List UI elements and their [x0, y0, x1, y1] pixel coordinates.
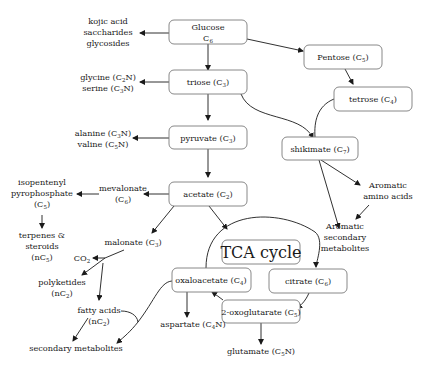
arrow-malonate-branch	[105, 250, 124, 258]
label-aromatic-amino-acids: Aromatic amino acids	[363, 180, 413, 201]
glucose-label: Glucose	[192, 22, 225, 32]
svg-text:(nC5): (nC5)	[31, 252, 52, 263]
svg-text:alanine (C3N): alanine (C3N)	[75, 128, 131, 139]
label-glucose-products: kojic acid saccharides glycosides	[83, 16, 132, 48]
node-pyruvate: pyruvate (C3)	[169, 126, 247, 149]
node-glucose: Glucose C6	[169, 20, 247, 44]
arrow-fatty-secondary	[73, 318, 88, 341]
svg-text:tetrose (C4): tetrose (C4)	[349, 94, 397, 105]
svg-text:CO2: CO2	[74, 253, 90, 264]
svg-text:secondary: secondary	[324, 232, 367, 242]
arrow-shikimate-aromatic-secondary	[319, 160, 339, 228]
svg-text:serine (C3N): serine (C3N)	[82, 83, 134, 94]
svg-text:kojic acid: kojic acid	[88, 16, 128, 26]
node-oxaloacetate: oxaloacetate (C4)	[172, 268, 251, 292]
arrow-oxaloacetate-secondary	[117, 281, 172, 343]
svg-text:(C5): (C5)	[34, 199, 50, 210]
svg-text:glutamate (C5N): glutamate (C5N)	[227, 346, 295, 357]
label-glutamate: glutamate (C5N)	[227, 346, 295, 357]
node-triose: triose (C3)	[169, 70, 247, 94]
svg-text:secondary metabolites: secondary metabolites	[29, 343, 123, 353]
svg-text:2-oxoglutarate (C5): 2-oxoglutarate (C5)	[221, 307, 300, 318]
brace-fatty-acids	[121, 311, 138, 322]
label-aromatic-secondary-metabolites: Aromatic secondary metabolites	[321, 221, 370, 253]
node-2-oxoglutarate: 2-oxoglutarate (C5)	[221, 300, 300, 323]
svg-text:(nC2): (nC2)	[88, 316, 109, 327]
arrow-shikimate-aromatic-amino	[321, 160, 360, 185]
svg-text:mevalonate: mevalonate	[99, 183, 147, 193]
arrow-acetate-malonate	[152, 206, 174, 233]
tca-cycle-label: TCA cycle	[220, 243, 301, 262]
label-malonate: malonate (C3)	[104, 237, 161, 248]
arrow-branch-fatty-acids	[99, 263, 103, 300]
label-polyketides: polyketides (nC2)	[38, 277, 85, 299]
svg-text:shikimate (C7): shikimate (C7)	[290, 144, 349, 155]
svg-text:saccharides: saccharides	[83, 27, 132, 37]
node-shikimate: shikimate (C7)	[282, 137, 358, 160]
node-citrate: citrate (C6)	[269, 269, 347, 293]
svg-text:Aromatic: Aromatic	[325, 221, 364, 231]
label-co2: CO2	[74, 253, 90, 264]
label-mevalonate: mevalonate (C6)	[99, 183, 147, 205]
label-aspartate: aspartate (C4N)	[160, 319, 225, 330]
svg-text:malonate (C3): malonate (C3)	[104, 237, 161, 248]
svg-text:pyrophosphate: pyrophosphate	[11, 188, 73, 198]
svg-text:metabolites: metabolites	[321, 243, 370, 253]
svg-text:glycine (C2N): glycine (C2N)	[80, 72, 136, 83]
node-acetate: acetate (C2)	[169, 182, 247, 206]
svg-text:citrate (C6): citrate (C6)	[285, 276, 331, 287]
svg-text:acetate (C2): acetate (C2)	[183, 189, 232, 200]
arrow-triose-shikimate	[241, 94, 313, 138]
svg-text:glycosides: glycosides	[86, 38, 129, 48]
label-alanine-valine: alanine (C3N) valine (C5N)	[75, 128, 131, 150]
metabolic-pathway-diagram: Glucose C6 Pentose (C5) triose (C3) tetr…	[0, 0, 426, 371]
svg-text:amino acids: amino acids	[363, 191, 413, 201]
svg-text:(C6): (C6)	[115, 194, 131, 205]
arrow-amino-aromatic-secondary	[356, 205, 369, 219]
arrow-oxoglutarate-oxaloacetate	[212, 292, 223, 300]
node-tetrose: tetrose (C4)	[334, 87, 412, 111]
arrow-acetate-tca	[209, 206, 227, 229]
svg-text:(nC2): (nC2)	[51, 288, 72, 299]
svg-text:terpenes &: terpenes &	[19, 230, 65, 240]
svg-text:Aromatic: Aromatic	[368, 180, 407, 190]
label-isopentenyl-pyrophosphate: isopentenyl pyrophosphate (C5)	[11, 177, 73, 210]
svg-text:pyruvate (C3): pyruvate (C3)	[180, 133, 235, 144]
arrow-pentose-tetrose	[345, 69, 353, 84]
node-tca-cycle: TCA cycle	[220, 240, 301, 264]
svg-text:steroids: steroids	[25, 241, 58, 251]
arrow-glucose-pentose	[247, 39, 303, 51]
svg-text:fatty acids: fatty acids	[77, 305, 120, 315]
svg-text:isopentenyl: isopentenyl	[18, 177, 66, 187]
arrow-tetrose-shikimate	[315, 99, 334, 137]
svg-text:oxaloacetate (C4): oxaloacetate (C4)	[175, 275, 246, 286]
label-terpenes-steroids: terpenes & steroids (nC5)	[19, 230, 65, 263]
svg-text:polyketides: polyketides	[38, 277, 85, 287]
svg-text:valine (C5N): valine (C5N)	[77, 139, 129, 150]
node-pentose: Pentose (C5)	[304, 45, 382, 69]
label-secondary-metabolites: secondary metabolites	[29, 343, 123, 353]
svg-text:aspartate (C4N): aspartate (C4N)	[160, 319, 225, 330]
label-glycine-serine: glycine (C2N) serine (C3N)	[80, 72, 136, 94]
svg-text:Pentose (C5): Pentose (C5)	[317, 52, 368, 63]
